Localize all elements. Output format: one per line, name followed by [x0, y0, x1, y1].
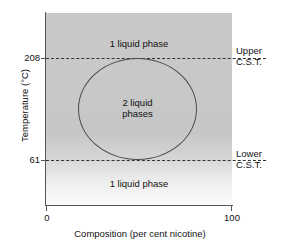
x-tick-label-0: 0 [41, 212, 53, 223]
x-axis-tick-0 [46, 206, 47, 211]
region-label-lower-one-phase: 1 liquid phase [46, 178, 232, 189]
region-label-two-phase-line1: 2 liquid [122, 97, 152, 108]
x-axis-title: Composition (per cent nicotine) [30, 228, 250, 239]
x-tick-label-100: 100 [220, 212, 244, 223]
region-label-two-phase: 2 liquid phases [78, 97, 197, 119]
lower-cst-label-line1: Lower [236, 148, 262, 159]
upper-cst-dashed-line [46, 58, 266, 59]
x-axis-tick-100 [231, 206, 232, 211]
lower-cst-label-line2: C.S.T. [236, 159, 262, 170]
upper-cst-label-line1: Upper [236, 45, 262, 56]
upper-cst-label: Upper C.S.T. [236, 45, 262, 67]
lower-cst-label: Lower C.S.T. [236, 148, 262, 170]
upper-cst-label-line2: C.S.T. [236, 56, 262, 67]
x-axis-line [45, 205, 233, 206]
region-label-two-phase-line2: phases [122, 108, 153, 119]
phase-diagram-figure: 1 liquid phase 2 liquid phases 1 liquid … [0, 0, 282, 250]
region-label-upper-one-phase: 1 liquid phase [46, 38, 232, 49]
lower-cst-dashed-line [46, 160, 266, 161]
y-axis-title: Temperature (°C) [19, 36, 30, 176]
